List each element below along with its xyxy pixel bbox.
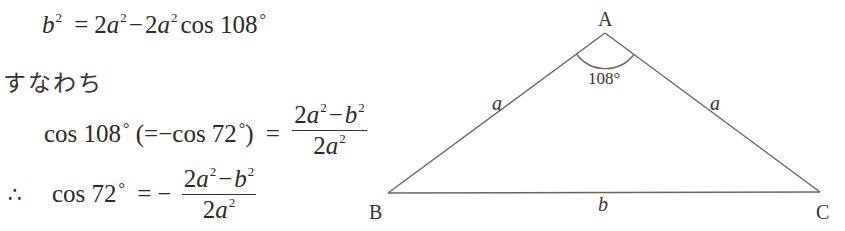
vertex-label-C: C <box>816 201 829 223</box>
side-label-AB: a <box>492 92 502 114</box>
side-label-AC: a <box>710 92 720 114</box>
vertex-label-A: A <box>598 8 613 30</box>
angle-arc-A <box>577 54 635 69</box>
angle-label-A: 108° <box>588 69 620 88</box>
triangle-diagram: A B C 108° a a b <box>0 0 845 231</box>
vertex-label-B: B <box>369 201 382 223</box>
side-label-BC: b <box>598 193 608 215</box>
